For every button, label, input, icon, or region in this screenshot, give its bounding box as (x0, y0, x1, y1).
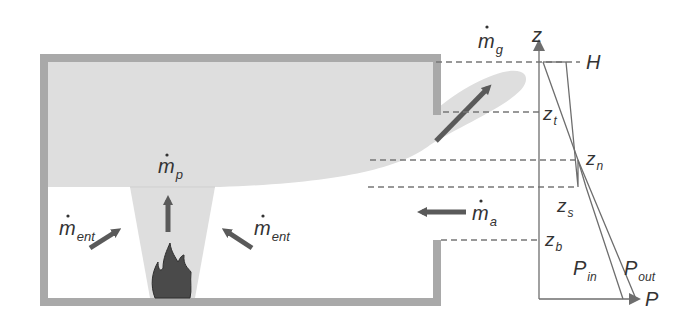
dot (485, 25, 488, 28)
compartment-fire-diagram: mg mp ment ment ma z P H zt zn zs zb Pin… (0, 0, 697, 320)
ceiling (40, 54, 433, 62)
level-label-zs: zs (556, 195, 574, 220)
label-m-a: ma (472, 202, 497, 229)
level-label-zt: zt (542, 103, 558, 128)
floor (40, 298, 441, 306)
label-m-ent-left: ment (59, 217, 96, 244)
dot (479, 199, 482, 202)
level-label-zb: zb (544, 229, 563, 254)
soffit-wall (433, 54, 441, 115)
dot (66, 214, 69, 217)
z-axis-label: z (531, 24, 542, 46)
curve-label-p-in: Pin (573, 257, 597, 284)
lower-right-wall (433, 240, 441, 306)
label-m-ent-right: ment (254, 217, 291, 244)
entrain-right-arrow (226, 231, 252, 248)
level-label-H: H (586, 51, 601, 73)
pressure-axes (539, 45, 636, 299)
dot (165, 153, 168, 156)
level-label-zn: zn (585, 148, 604, 173)
p-axis-label: P (645, 288, 659, 310)
label-m-g: mg (478, 30, 504, 57)
left-wall (40, 54, 48, 306)
dot (261, 214, 264, 217)
